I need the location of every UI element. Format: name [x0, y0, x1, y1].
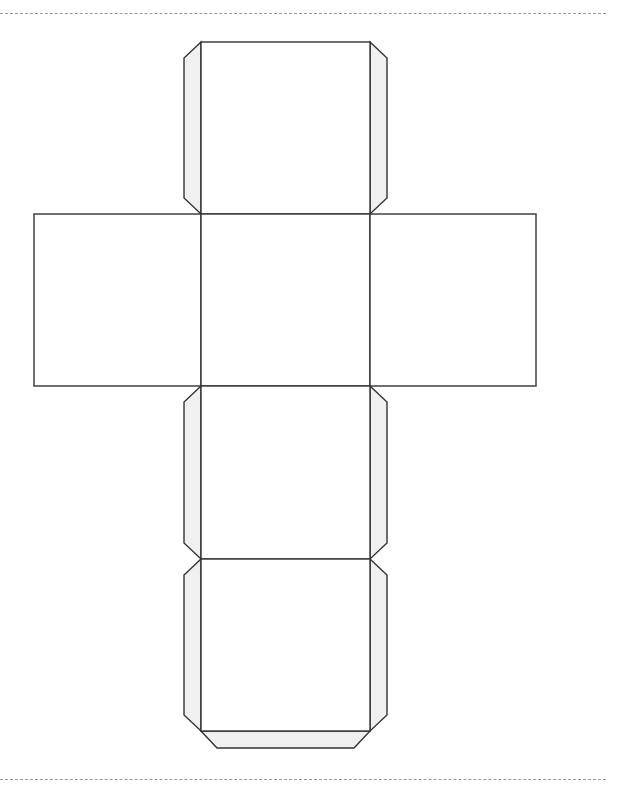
tab-top-right: [370, 42, 387, 214]
lower-face: [201, 386, 370, 559]
right-face: [370, 214, 536, 386]
tab-lower-left: [184, 386, 201, 559]
top-face: [201, 42, 370, 214]
tab-bottom-right: [370, 559, 387, 731]
tab-bottom-left: [184, 559, 201, 731]
tab-lower-right: [370, 386, 387, 559]
tab-bottom-end: [201, 731, 370, 748]
tab-top-left: [184, 42, 201, 214]
left-face: [34, 214, 201, 386]
cube-net: [0, 0, 628, 796]
bottom-face: [201, 559, 370, 731]
center-face: [201, 214, 370, 386]
